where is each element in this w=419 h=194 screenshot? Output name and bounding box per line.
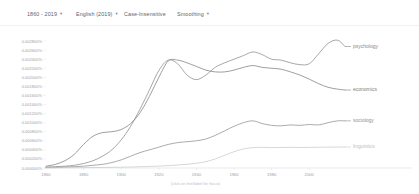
legend-label-economics[interactable]: economics	[353, 86, 377, 92]
x-axis-tick-label: 2000	[305, 172, 315, 177]
date-range-label: 1860 - 2019	[27, 11, 57, 17]
series-line-linguistics[interactable]	[46, 147, 345, 168]
chart-caption: (click on line/label for focus)	[171, 181, 221, 186]
x-axis-tick-label: 1920	[154, 172, 164, 177]
y-axis-tick-label: 0.002200%	[22, 66, 43, 71]
series-line-sociology[interactable]	[46, 121, 345, 168]
y-axis-tick-label: 0.000400%	[22, 147, 43, 152]
series-lines[interactable]	[46, 40, 345, 168]
x-axis-tick-label: 1880	[79, 172, 89, 177]
chevron-down-icon: ▾	[207, 12, 209, 16]
chevron-down-icon: ▾	[60, 12, 62, 16]
x-axis-tick-label: 1860	[41, 172, 51, 177]
series-line-psychology[interactable]	[46, 40, 345, 167]
smoothing-label: Smoothing	[177, 11, 204, 17]
case-insensitive-label: Case-Insensitive	[124, 11, 166, 17]
corpus-dropdown[interactable]: English (2019) ▾	[76, 9, 118, 19]
chart-svg[interactable]: 0.000000%0.000200%0.000400%0.000600%0.00…	[0, 26, 419, 194]
y-axis-tick-label: 0.000800%	[22, 129, 43, 134]
legend-label-psychology[interactable]: psychology	[353, 43, 379, 49]
corpus-label: English (2019)	[76, 11, 112, 17]
legend-label-linguistics[interactable]: linguistics	[353, 143, 375, 149]
y-axis-tick-label: 0.002800%	[22, 39, 43, 44]
y-axis-tick-label: 0.000200%	[22, 156, 43, 161]
smoothing-dropdown[interactable]: Smoothing ▾	[177, 9, 209, 19]
y-axis-tick-label: 0.001000%	[22, 120, 43, 125]
x-axis-tick-label: 1900	[117, 172, 127, 177]
y-axis-ticks: 0.000000%0.000200%0.000400%0.000600%0.00…	[22, 39, 46, 171]
y-axis-tick-label: 0.000000%	[22, 166, 43, 171]
y-axis-tick-label: 0.002600%	[22, 48, 43, 53]
legend[interactable]: psychologyeconomicssociologylinguistics	[345, 43, 379, 150]
x-axis-tick-label: 1960	[229, 172, 239, 177]
series-line-economics[interactable]	[46, 59, 345, 166]
y-axis-tick-label: 0.001600%	[22, 93, 43, 98]
y-axis-tick-label: 0.000600%	[22, 138, 43, 143]
ngram-chart[interactable]: 0.000000%0.000200%0.000400%0.000600%0.00…	[0, 26, 419, 194]
y-axis-tick-label: 0.002000%	[22, 75, 43, 80]
y-axis-tick-label: 0.002400%	[22, 57, 43, 62]
case-insensitive-toggle[interactable]: Case-Insensitive	[124, 9, 166, 19]
y-axis-tick-label: 0.001400%	[22, 102, 43, 107]
y-axis-tick-label: 0.001200%	[22, 111, 43, 116]
chart-options-toolbar: 1860 - 2019 ▾ English (2019) ▾ Case-Inse…	[0, 0, 419, 26]
chevron-down-icon: ▾	[115, 12, 117, 16]
x-axis-ticks: 18601880190019201940196019802000	[41, 168, 314, 177]
x-axis-tick-label: 1980	[267, 172, 277, 177]
x-axis-tick-label: 1940	[192, 172, 202, 177]
ngram-viewer-app: 1860 - 2019 ▾ English (2019) ▾ Case-Inse…	[0, 0, 419, 194]
date-range-dropdown[interactable]: 1860 - 2019 ▾	[27, 9, 62, 19]
legend-label-sociology[interactable]: sociology	[353, 117, 374, 123]
y-axis-tick-label: 0.001800%	[22, 84, 43, 89]
